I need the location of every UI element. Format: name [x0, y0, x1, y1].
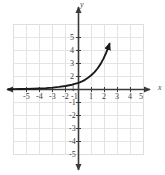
x-tick-label--3: -3	[49, 93, 56, 101]
y-tick-label-5: 5	[70, 34, 74, 42]
y-tick-label--3: -3	[69, 125, 76, 133]
y-axis-label: y	[80, 1, 84, 9]
x-axis-label: x	[158, 84, 162, 92]
y-tick-label--4: -4	[69, 138, 76, 146]
y-tick-label-1: 1	[71, 85, 75, 93]
x-tick-label-3: 3	[115, 93, 119, 101]
x-tick-label--4: -4	[36, 93, 43, 101]
y-tick-label--5: -5	[69, 151, 76, 159]
y-tick-label--2: -2	[69, 112, 76, 120]
coordinate-plane-chart	[0, 0, 165, 175]
x-tick-label-2: 2	[102, 93, 106, 101]
y-tick-label-4: 4	[70, 47, 74, 55]
x-tick-label--2: -2	[62, 93, 69, 101]
y-tick-label--1: -1	[69, 99, 76, 107]
x-tick-label-5: 5	[139, 93, 143, 101]
y-tick-label-3: 3	[70, 60, 74, 68]
exponential-graph-figure: -5 -4 -3 -2 -1 1 2 3 4 5 5 4 3 2 1 -1 -2…	[0, 0, 165, 175]
x-tick-label--5: -5	[23, 93, 30, 101]
y-tick-label-2: 2	[70, 73, 74, 81]
x-tick-label-4: 4	[128, 93, 132, 101]
x-tick-label-1: 1	[89, 93, 93, 101]
